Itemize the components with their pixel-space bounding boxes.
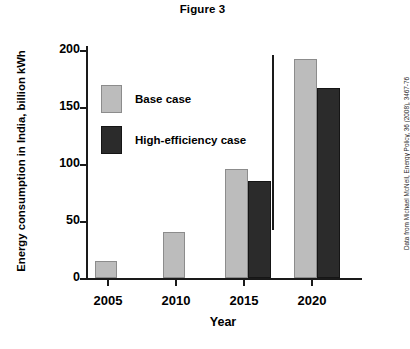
- bar-base-2020: [294, 59, 317, 278]
- x-tick-label-2015: 2015: [209, 293, 279, 308]
- y-tick-label: 100: [59, 156, 80, 170]
- x-tick-label-2020: 2020: [277, 293, 347, 308]
- y-tick-label: 50: [66, 213, 80, 227]
- y-tick-label: 0: [73, 270, 80, 284]
- x-tick-mark-2005: [107, 280, 109, 286]
- y-tick-label: 200: [59, 42, 80, 56]
- legend-item-high-efficiency-case: High-efficiency case: [101, 126, 246, 154]
- y-tick-mark: [80, 50, 86, 52]
- bar-high-2015: [248, 181, 271, 278]
- y-axis-label: Energy consumption in India, billion kWh: [15, 36, 27, 286]
- y-tick-mark: [80, 164, 86, 166]
- legend-label-high-efficiency-case: High-efficiency case: [135, 134, 246, 146]
- legend-label-base-case: Base case: [135, 93, 191, 105]
- x-axis-label: Year: [86, 315, 360, 329]
- chart-legend: Base case High-efficiency case: [101, 85, 246, 167]
- bar-base-2010: [163, 232, 185, 278]
- bar-high-2020: [317, 88, 340, 278]
- x-tick-mark-2010: [175, 280, 177, 286]
- plot-right-border: [272, 55, 274, 230]
- x-tick-mark-2020: [311, 280, 313, 286]
- y-tick-mark: [80, 278, 86, 280]
- x-tick-label-2010: 2010: [141, 293, 211, 308]
- y-tick-mark: [80, 221, 86, 223]
- legend-item-base-case: Base case: [101, 85, 246, 113]
- legend-swatch-icon-high-efficiency-case: [101, 126, 122, 154]
- x-tick-label-2005: 2005: [73, 293, 143, 308]
- y-tick-label: 150: [59, 99, 80, 113]
- x-axis-line: [82, 278, 362, 280]
- figure-title: Figure 3: [0, 3, 405, 15]
- y-tick-mark: [80, 107, 86, 109]
- bar-base-2005: [95, 261, 117, 278]
- source-credit: Data from Michael McNeil, Energy Policy,…: [403, 54, 410, 274]
- y-axis-line: [86, 46, 88, 280]
- bar-base-2015: [225, 169, 248, 278]
- legend-swatch-icon-base-case: [101, 85, 122, 113]
- x-tick-mark-2015: [243, 280, 245, 286]
